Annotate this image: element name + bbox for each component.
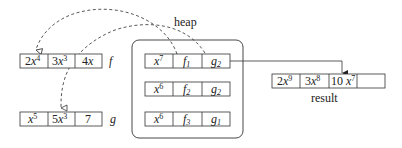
f-array: 2x4 3x3 4x (20, 54, 102, 68)
g-label: g (110, 112, 116, 126)
g-array: x5 5x3 7 (20, 112, 102, 126)
result-arrow (230, 61, 342, 73)
result-array: 2x9 3x8 10 x7 (272, 74, 385, 88)
heap-row: x6 f2 g2 (145, 82, 230, 97)
f1-pointer-arrow (36, 9, 177, 54)
heap-row: x6 f3 g1 (145, 112, 230, 127)
g-cell: 7 (85, 112, 91, 126)
f-label: f (109, 54, 114, 68)
heap-label: heap (174, 15, 197, 29)
polynomial-heap-diagram: heap x7 f1 g2 x6 f2 g2 x6 f3 g1 2x4 3x3 … (0, 0, 402, 148)
result-label: result (311, 91, 338, 105)
heap-row: x7 f1 g2 (145, 54, 230, 69)
f-cell: 4x (82, 54, 94, 68)
